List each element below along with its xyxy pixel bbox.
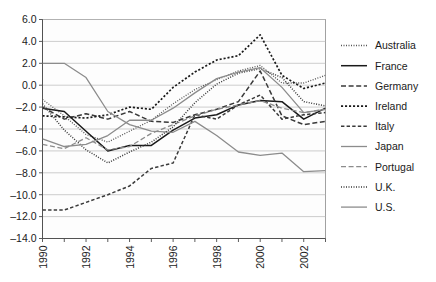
y-axis-tick-label: 2.0	[22, 57, 37, 69]
y-axis-tick-label: –4.0	[16, 123, 37, 135]
legend-label-portugal: Portugal	[375, 161, 414, 173]
legend-label-italy: Italy	[375, 120, 395, 132]
x-axis: 1990199219941996199820002002	[37, 239, 326, 269]
legend-label-australia: Australia	[375, 39, 416, 51]
y-axis-tick-label: –14.0	[10, 232, 36, 244]
x-axis-tick-label: 1998	[211, 245, 223, 269]
y-axis-tick-label: 4.0	[22, 35, 37, 47]
legend-label-uk: U.K.	[375, 181, 395, 193]
chart-canvas: 6.04.02.00.0–2.0–4.0–6.0–8.0–10.0–12.0–1…	[0, 0, 436, 282]
legend-label-germany: Germany	[375, 80, 419, 92]
legend-label-us: U.S.	[375, 201, 395, 213]
x-axis-tick-label: 1990	[37, 245, 49, 269]
x-axis-tick-label: 2000	[254, 245, 266, 269]
y-axis-tick-label: –8.0	[16, 167, 37, 179]
y-axis: 6.04.02.00.0–2.0–4.0–6.0–8.0–10.0–12.0–1…	[10, 13, 42, 244]
y-axis-tick-label: –6.0	[16, 145, 37, 157]
y-axis-tick-label: –10.0	[10, 189, 36, 201]
x-axis-tick-label: 2002	[298, 245, 310, 269]
x-axis-tick-label: 1996	[167, 245, 179, 269]
x-axis-tick-label: 1992	[80, 245, 92, 269]
y-axis-tick-label: –2.0	[16, 101, 37, 113]
legend-label-ireland: Ireland	[375, 100, 407, 112]
y-axis-tick-label: –12.0	[10, 210, 36, 222]
line-chart: 6.04.02.00.0–2.0–4.0–6.0–8.0–10.0–12.0–1…	[0, 0, 436, 282]
legend: AustraliaFranceGermanyIrelandItalyJapanP…	[341, 39, 419, 213]
legend-label-japan: Japan	[375, 140, 404, 152]
y-axis-tick-label: 6.0	[22, 13, 37, 25]
y-axis-tick-label: 0.0	[22, 79, 37, 91]
x-axis-tick-label: 1994	[124, 245, 136, 269]
legend-label-france: France	[375, 60, 408, 72]
